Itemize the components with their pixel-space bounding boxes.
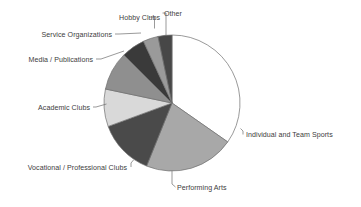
slice-label-academic-clubs: Academic Clubs bbox=[38, 104, 90, 112]
pie-chart-figure: Individual and Team SportsPerforming Art… bbox=[0, 0, 361, 207]
leader-line-media-publications bbox=[96, 51, 124, 59]
slice-label-performing-arts: Performing Arts bbox=[177, 184, 227, 192]
slice-label-media-publications: Media / Publications bbox=[29, 56, 94, 64]
leader-line-vocational-professional-clubs bbox=[131, 160, 134, 167]
slice-label-hobby-clubs: Hobby Clubs bbox=[119, 14, 161, 22]
slice-label-vocational-professional-clubs: Vocational / Professional Clubs bbox=[28, 164, 128, 172]
pie-slices-group bbox=[104, 35, 240, 171]
pie-chart-canvas: Individual and Team SportsPerforming Art… bbox=[0, 0, 361, 207]
leader-line-individual-and-team-sports bbox=[241, 129, 244, 135]
slice-label-other: Other bbox=[164, 10, 183, 18]
leader-line-performing-arts bbox=[172, 171, 176, 187]
slice-label-service-organizations: Service Organizations bbox=[42, 31, 113, 39]
slice-label-individual-and-team-sports: Individual and Team Sports bbox=[246, 131, 333, 139]
leader-line-service-organizations bbox=[115, 33, 141, 34]
